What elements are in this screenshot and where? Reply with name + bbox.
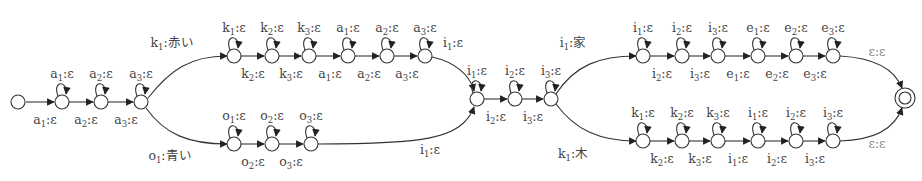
transducer-graph: a1:εa2:εa3:εk1:赤いo1:青いk2:εk3:εa1:εa2:εa3… [0, 0, 922, 181]
self-loop-arc [136, 84, 146, 96]
arc-label: i3:ε [523, 109, 543, 126]
state-node [544, 92, 558, 106]
self-loop-arc [267, 38, 277, 50]
arc-label: a2:ε [375, 20, 399, 37]
arc-label: i2:ε [486, 109, 506, 126]
transition-arc [318, 107, 474, 144]
self-loop-arc [638, 123, 648, 135]
arc-label: o2:ε [260, 108, 284, 125]
arc-label: a3:ε [395, 66, 419, 83]
arc-label: i3:ε [708, 20, 728, 37]
state-node [508, 92, 522, 106]
arc-label: a1:ε [336, 20, 360, 37]
arc-label: k2:ε [650, 151, 674, 168]
arc-label: k2:ε [670, 105, 694, 122]
state-node [675, 134, 689, 148]
self-loop-arc [828, 123, 838, 135]
arc-label: i3:ε [823, 105, 843, 122]
arc-label: o3:ε [279, 154, 303, 171]
state-node [227, 49, 241, 63]
self-loop-arc [677, 123, 687, 135]
transition-arc [146, 108, 227, 144]
arc-label: i2:ε [767, 151, 787, 168]
arc-label: a1:ε [33, 112, 57, 129]
arc-label: i3:ε [690, 66, 710, 83]
arc-label: a2:ε [89, 66, 113, 83]
arc-label: i1:ε [443, 35, 463, 52]
arc-label: k2:ε [260, 20, 284, 37]
self-loop-arc [828, 38, 838, 50]
state-node [470, 92, 484, 106]
arc-label: a3:ε [129, 66, 153, 83]
self-loop-arc [57, 84, 67, 96]
self-loop-arc [306, 126, 316, 138]
wfst-diagram: a1:εa2:εa3:εk1:赤いo1:青いk2:εk3:εa1:εa2:εa3… [0, 0, 922, 181]
arc-label: o2:ε [241, 154, 265, 171]
state-node [304, 137, 318, 151]
state-node [418, 49, 432, 63]
self-loop-arc [96, 84, 106, 96]
state-node [711, 49, 725, 63]
arc-label: i1:ε [420, 142, 440, 159]
self-loop-arc [546, 81, 556, 93]
self-loop-arc [343, 38, 353, 50]
self-loop-arc [229, 38, 239, 50]
state-node [302, 49, 316, 63]
arc-label: i1:ε [728, 151, 748, 168]
arc-label: e1:ε [746, 20, 770, 37]
state-node [675, 49, 689, 63]
state-node [751, 134, 765, 148]
self-loop-arc [229, 126, 239, 138]
state-node [265, 49, 279, 63]
arc-label: o3:ε [299, 108, 323, 125]
state-node [751, 49, 765, 63]
self-loop-arc [510, 81, 520, 93]
state-node [789, 49, 803, 63]
arc-label: k3:ε [279, 66, 303, 83]
self-loop-arc [753, 38, 763, 50]
state-node [341, 49, 355, 63]
arc-label: i2:ε [652, 66, 672, 83]
arc-label: k3:ε [706, 105, 730, 122]
self-loop-arc [382, 38, 392, 50]
arc-label: k1:ε [222, 20, 246, 37]
self-loop-arc [791, 38, 801, 50]
self-loop-arc [638, 38, 648, 50]
arc-label: k1:赤い [150, 35, 193, 52]
arc-label: k2:ε [241, 66, 265, 83]
state-node [826, 134, 840, 148]
state-node [636, 49, 650, 63]
state-node [826, 49, 840, 63]
arc-label: k1:木 [558, 146, 588, 163]
self-loop-arc [420, 38, 430, 50]
arc-label: e2:ε [784, 20, 808, 37]
arc-label: i1:ε [748, 105, 768, 122]
state-node [636, 134, 650, 148]
arc-label: k1:ε [631, 105, 655, 122]
state-node [94, 95, 108, 109]
arc-label: i1:家 [560, 35, 587, 52]
self-loop-arc [713, 38, 723, 50]
transition-arc [840, 56, 902, 88]
arc-label: ε:ε [868, 44, 885, 59]
self-loop-arc [713, 123, 723, 135]
arc-label: e3:ε [803, 66, 827, 83]
self-loop-arc [791, 123, 801, 135]
arc-label: e2:ε [765, 66, 789, 83]
arc-label: i2:ε [786, 105, 806, 122]
arc-label: i1:ε [467, 63, 487, 80]
transition-arc [556, 104, 636, 141]
arc-label: k3:ε [688, 151, 712, 168]
arc-label: ε:ε [868, 136, 885, 151]
arc-label: i2:ε [505, 63, 525, 80]
state-node [227, 137, 241, 151]
arc-label: a2:ε [357, 66, 381, 83]
self-loop-arc [753, 123, 763, 135]
self-loop-arc [304, 38, 314, 50]
state-node [265, 137, 279, 151]
final-state-inner [899, 92, 911, 104]
arc-label: a2:ε [74, 112, 98, 129]
arc-label: k3:ε [297, 20, 321, 37]
arc-label: o1:青い [148, 148, 191, 165]
arc-label: a3:ε [114, 112, 138, 129]
